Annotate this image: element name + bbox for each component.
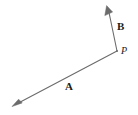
vector-diagram-figure: A B P (0, 0, 138, 115)
vector-b-shaft (109, 11, 117, 52)
vector-b-arrowhead (105, 6, 113, 16)
vector-b-label: B (117, 21, 125, 32)
vector-a-label: A (65, 81, 73, 92)
point-p-label: P (121, 46, 127, 56)
vector-a-group (12, 51, 117, 107)
vector-diagram-canvas (0, 0, 138, 115)
vector-a-arrowhead (12, 99, 22, 106)
vector-a-shaft (17, 51, 118, 104)
vector-b-group (105, 6, 117, 51)
point-p-marker (116, 50, 118, 52)
